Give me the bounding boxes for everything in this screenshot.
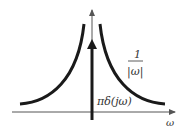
left-curve (20, 24, 84, 104)
impulse-label: πδ(jω) (96, 95, 132, 108)
curve-label-numerator: 1 (134, 48, 141, 61)
curve-label-denominator: |ω| (127, 65, 143, 79)
spectrum-diagram: 1 |ω| πδ(jω) ω (0, 0, 187, 134)
right-curve (100, 24, 165, 104)
x-axis-label: ω (166, 117, 174, 128)
